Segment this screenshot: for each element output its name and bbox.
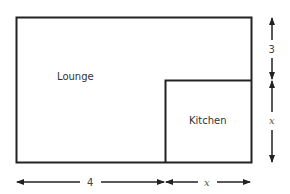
dimension-right-bottom: x bbox=[269, 81, 275, 162]
dimension-right-top: 3 bbox=[269, 18, 275, 79]
dimension-bottom-left: 4 bbox=[17, 177, 164, 188]
dimension-label-4: 4 bbox=[87, 177, 93, 188]
floor-plan-diagram: Lounge Kitchen 3 x 4 x bbox=[0, 0, 290, 194]
dimension-bottom-right: x bbox=[166, 177, 250, 188]
kitchen-label: Kitchen bbox=[189, 115, 227, 126]
dimension-label-x-horizontal: x bbox=[204, 177, 210, 188]
dimension-label-3: 3 bbox=[269, 44, 275, 55]
dimension-label-x-vertical: x bbox=[269, 115, 275, 126]
outer-floor-outline bbox=[17, 18, 252, 163]
lounge-label: Lounge bbox=[57, 71, 94, 82]
